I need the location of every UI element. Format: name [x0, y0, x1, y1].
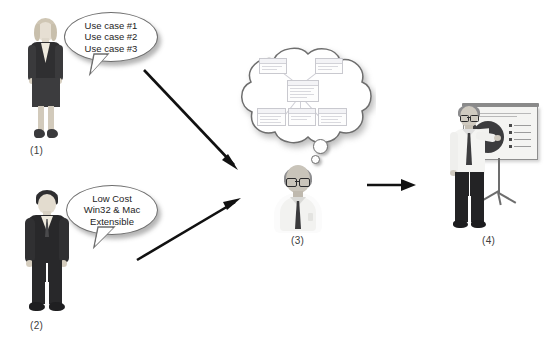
- shoe-left: [34, 129, 45, 138]
- shoe-left: [29, 302, 45, 311]
- shoe-right: [47, 129, 58, 138]
- tripod-pole: [498, 158, 500, 194]
- legend-swatch: [509, 145, 512, 148]
- arm-right: [55, 45, 63, 81]
- shoe-left: [453, 220, 468, 228]
- shoe-right: [49, 302, 65, 311]
- legend-entry: [514, 132, 531, 133]
- shoe-right: [471, 220, 486, 228]
- hair-right: [51, 24, 57, 41]
- trouser-left: [455, 172, 469, 222]
- uml-class-box: [315, 58, 343, 74]
- arm-right: [59, 218, 69, 263]
- legend-entry: [514, 125, 531, 126]
- uml-class-box: [259, 58, 287, 74]
- legend-swatch: [509, 124, 512, 127]
- uml-class-box: [318, 108, 347, 126]
- actor-1-businesswoman: [22, 18, 70, 140]
- actor-4-label: (4): [482, 235, 495, 246]
- trouser-gap: [468, 196, 471, 222]
- uml-class-box: [288, 108, 316, 126]
- actor-3-label: (3): [291, 235, 304, 246]
- uml-sketch: [255, 56, 347, 130]
- actor-2-label: (2): [30, 320, 43, 331]
- trouser-gap: [45, 282, 49, 306]
- thought-cloud-design: [228, 44, 376, 156]
- legend-swatch: [509, 138, 512, 141]
- thought-dot-large: [313, 139, 328, 154]
- arm-left: [28, 45, 36, 81]
- arrow-3-to-4: [366, 176, 422, 196]
- speech-bubble-requirements-tail: [78, 52, 118, 78]
- glasses-icon: [286, 178, 310, 185]
- speech-bubble-constraints-tail: [82, 225, 122, 251]
- actor-4-presenter: [446, 104, 496, 232]
- figure-canvas: (1) Use case #1 Use case #2 Use case #3: [0, 0, 547, 338]
- uml-class-box: [257, 108, 286, 126]
- actor-3-architect: [272, 163, 324, 233]
- glasses-icon: [460, 115, 478, 120]
- arrow-2-to-3: [135, 190, 255, 270]
- actor-1-label: (1): [30, 145, 43, 156]
- legend-swatch: [509, 131, 512, 134]
- hand-pointing: [494, 135, 501, 141]
- pocket: [308, 213, 313, 221]
- uml-class-box-center: [287, 80, 319, 102]
- trouser-right: [48, 260, 62, 304]
- skirt: [32, 78, 60, 107]
- hair-left: [34, 24, 40, 41]
- arm-left: [25, 218, 35, 263]
- speech-bubble-requirements-text: Use case #1 Use case #2 Use case #3: [85, 20, 138, 55]
- arm-left: [450, 132, 458, 174]
- legend-entry: [514, 139, 531, 140]
- legend-entry: [514, 146, 531, 147]
- speech-bubble-constraints-text: Low Cost Win32 & Mac Extensible: [84, 193, 141, 228]
- trouser-right: [470, 172, 484, 222]
- trouser-left: [32, 260, 46, 304]
